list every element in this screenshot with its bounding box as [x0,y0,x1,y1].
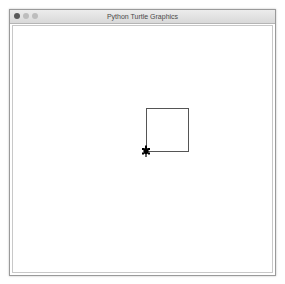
drawn-square [147,109,189,152]
drawing-layer [0,0,285,284]
